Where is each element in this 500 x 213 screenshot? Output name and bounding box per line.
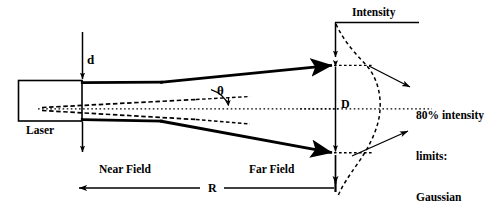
range-label: R — [208, 181, 217, 195]
beam-waist-dashed-upper — [42, 100, 196, 108]
far-field-label: Far Field — [249, 163, 294, 177]
annotation-line-2: limits: — [416, 150, 484, 164]
divergence-angle-label: θ — [217, 83, 224, 98]
intensity-limits-annotation: 80% intensity limits: Gaussian profile — [416, 82, 484, 213]
annotation-leader-lower — [352, 131, 408, 156]
annotation-leader-upper — [369, 66, 410, 87]
annotation-line-1: 80% intensity — [416, 109, 484, 123]
laser-divergence-diagram: Intensity d θ D Laser Near Field Far Fie… — [0, 0, 500, 213]
beam-waist-dashed-lower — [42, 111, 196, 120]
far-field-diameter-label: D — [341, 97, 350, 111]
beam-waist-dashed-lower-tail — [196, 120, 250, 125]
beam-edge-lower-near — [82, 120, 163, 122]
laser-label: Laser — [26, 124, 54, 138]
beam-diameter-label: d — [87, 52, 94, 67]
laser-housing — [19, 81, 83, 122]
beam-edge-upper — [160, 65, 332, 82]
annotation-line-3: Gaussian — [416, 191, 484, 205]
near-field-label: Near Field — [99, 163, 151, 177]
intensity-axis-label: Intensity — [352, 6, 395, 20]
beam-edge-lower — [160, 121, 332, 153]
